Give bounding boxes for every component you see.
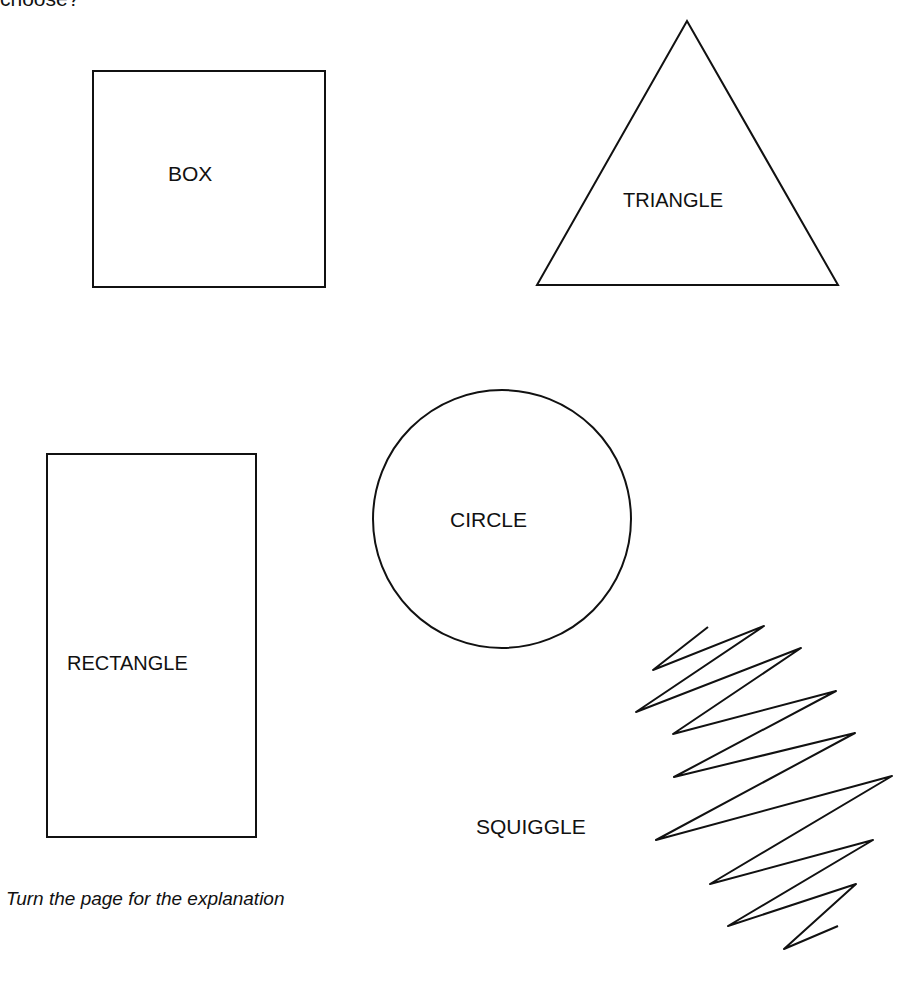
rectangle-shape [47, 454, 256, 837]
squiggle-shape [636, 626, 892, 949]
squiggle-label: SQUIGGLE [476, 815, 586, 839]
footer-note: Turn the page for the explanation [6, 888, 285, 910]
circle-label: CIRCLE [450, 508, 527, 532]
shape-worksheet: choose? BOX TRIANGLE CIRCLE RECTANGLE SQ… [0, 0, 912, 984]
rectangle-label: RECTANGLE [67, 652, 188, 675]
box-label: BOX [168, 162, 212, 186]
triangle-shape [537, 21, 838, 285]
triangle-label: TRIANGLE [623, 189, 723, 212]
shapes-canvas [0, 0, 912, 984]
